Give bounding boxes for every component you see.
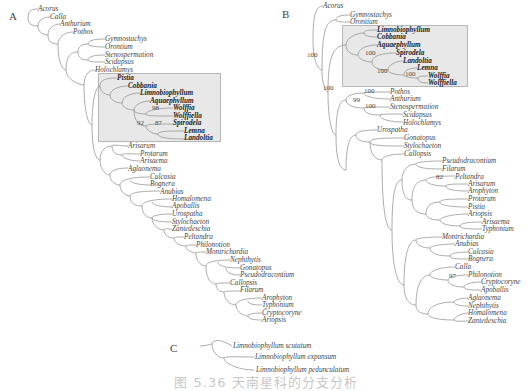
taxon-label: Scidapsus — [105, 58, 134, 66]
taxon-label: Protarum — [468, 195, 496, 203]
taxon-label: Arophyton — [468, 187, 498, 195]
taxon-label: Limnobiophyllum — [140, 89, 193, 97]
taxon-label: Wolffiella — [428, 79, 457, 87]
bootstrap-support-value: 100 — [364, 87, 375, 95]
taxon-label: Stylochaeton — [404, 142, 441, 150]
taxon-label: Gymnostachys — [105, 35, 147, 43]
panel-b-label: B — [282, 8, 289, 20]
taxon-label: Aglaonema — [468, 294, 501, 302]
taxon-label: Homalomena — [468, 309, 507, 317]
panel-c-label: C — [170, 342, 177, 354]
taxon-label: Ariopsis — [468, 210, 492, 218]
taxon-label: Aglaonema — [128, 165, 161, 173]
taxon-label: Arisaema — [140, 157, 168, 165]
bootstrap-support-value: 100 — [405, 70, 416, 78]
taxon-label: Cobbania — [377, 33, 406, 41]
taxon-label: Stenospermation — [390, 103, 438, 111]
taxon-label: Wolffia — [173, 104, 195, 112]
taxon-label: Calla — [455, 263, 471, 271]
taxon-label: Gonatopus — [404, 134, 436, 142]
taxon-label: Holochlamys — [403, 119, 441, 127]
bootstrap-support-value: 100 — [323, 84, 334, 92]
taxon-label: Anthurium — [390, 95, 421, 103]
taxon-label: Zantedeschia — [468, 317, 506, 325]
taxon-label: Peltandra — [184, 233, 213, 241]
taxon-label: Limnobiophyllum expansum — [255, 353, 336, 361]
taxon-label: Pistia — [117, 74, 134, 82]
bootstrap-support-value: 99 — [353, 96, 360, 104]
taxon-label: Spirodela — [173, 119, 201, 127]
panel-a-label: A — [9, 10, 17, 22]
taxon-label: Apoballis — [481, 286, 509, 294]
taxon-label: Scidapsus — [403, 111, 432, 119]
taxon-label: Bognera — [150, 180, 175, 188]
taxon-label: Nephthytis — [230, 256, 261, 264]
bootstrap-support-value: 82 — [436, 173, 443, 181]
taxon-label: Acorus — [38, 5, 58, 13]
taxon-label: Bognera — [468, 255, 493, 263]
taxon-label: Orontium — [350, 18, 378, 26]
taxon-label: Pothos — [73, 28, 93, 36]
bootstrap-support-value: 98 — [152, 104, 159, 112]
bootstrap-support-value: 97 — [449, 272, 456, 280]
bootstrap-support-value: 92 — [137, 119, 144, 127]
taxon-label: Zantedeschia — [172, 225, 210, 233]
taxon-label: Orontium — [105, 43, 133, 51]
taxon-label: Anubias — [455, 240, 479, 248]
taxon-label: Montrichardia — [206, 248, 248, 256]
taxon-label: Apoballis — [172, 202, 200, 210]
taxon-label: Arisarum — [128, 142, 155, 150]
taxon-label: Landoltia — [184, 134, 213, 142]
taxon-label: Typhonium — [482, 225, 514, 233]
bootstrap-support-value: 100 — [365, 102, 376, 110]
bootstrap-support-value: 100 — [365, 49, 376, 57]
bootstrap-support-value: 87 — [155, 119, 162, 127]
taxon-label: Spirodela — [396, 49, 424, 57]
taxon-label: Lemna — [417, 64, 438, 72]
figure-caption: 图 5.36 天南星科的分支分析 — [0, 372, 532, 391]
taxon-label: Typhonium — [262, 301, 294, 309]
taxon-label: Filarum — [442, 165, 466, 173]
taxon-label: Cryptocoryne — [481, 278, 521, 286]
taxon-label: Limnobiophyllum scutatum — [233, 342, 311, 350]
taxon-label: Callopsis — [404, 150, 431, 158]
taxon-label: Ariopsis — [262, 316, 286, 324]
bootstrap-support-value: 100 — [307, 51, 318, 59]
taxon-label: Aquaephyllum — [377, 41, 421, 49]
taxon-label: Pseudodracontium — [442, 157, 496, 165]
taxon-label: Filarum — [240, 286, 264, 294]
taxon-label: Anthurium — [60, 20, 91, 28]
taxon-label: Holochlamys — [95, 66, 133, 74]
taxon-label: Pseudodracontium — [240, 271, 294, 279]
taxon-label: Urospatha — [172, 210, 202, 218]
taxon-label: Acorus — [323, 2, 343, 10]
taxon-label: Urospatha — [377, 126, 407, 134]
bootstrap-support-value: 100 — [377, 67, 388, 75]
